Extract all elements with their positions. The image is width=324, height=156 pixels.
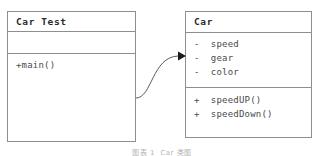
uml-class-diagram: Car Test +main() Car - speed - gear - co… bbox=[0, 0, 324, 156]
operation-item: + speedUP() bbox=[186, 93, 311, 107]
class-name-compartment: Car Test bbox=[8, 12, 135, 31]
connector-line bbox=[136, 56, 178, 98]
class-name-label: Car Test bbox=[8, 12, 135, 30]
class-box-car[interactable]: Car - speed - gear - color + speedUP() +… bbox=[185, 11, 312, 138]
attribute-item: - color bbox=[186, 65, 311, 79]
operation-item: + speedDown() bbox=[186, 107, 311, 121]
class-operations-compartment: +main() bbox=[8, 53, 135, 141]
class-box-car-test[interactable]: Car Test +main() bbox=[7, 11, 136, 142]
figure-caption: 图表 1 Car 类图 bbox=[0, 147, 324, 156]
operation-item: +main() bbox=[8, 58, 135, 72]
class-attributes-compartment: - speed - gear - color bbox=[186, 32, 311, 87]
attribute-item: - speed bbox=[186, 37, 311, 51]
class-operations-compartment: + speedUP() + speedDown() bbox=[186, 87, 311, 137]
attribute-item: - gear bbox=[186, 51, 311, 65]
class-name-compartment: Car bbox=[186, 12, 311, 32]
class-attributes-compartment bbox=[8, 31, 135, 53]
class-name-label: Car bbox=[186, 12, 311, 30]
